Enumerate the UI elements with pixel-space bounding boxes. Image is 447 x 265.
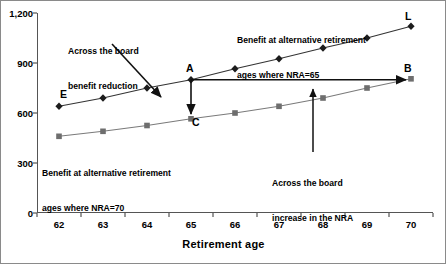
nra70-series-note-line1: Benefit at alternative retirement [42,168,171,180]
nra70-series-note-line2: ages where NRA=70 [42,203,171,215]
point-label-C: C [192,116,200,128]
nra70-series-note: Benefit at alternative retirement ages w… [42,145,171,237]
nra65-series-note: Benefit at alternative retirement ages w… [237,12,366,104]
benefit-reduction-note-line2: benefit reduction [68,81,139,93]
point-label-A: A [186,62,194,74]
point-label-E: E [60,88,67,100]
nra-increase-note-line1: Across the board [272,178,353,190]
nra-increase-note: Across the board increase in the NRA [272,155,353,247]
point-label-B: B [404,62,412,74]
x-axis-title: Retirement age [0,238,447,250]
x-tick-70: 70 [406,219,417,230]
x-tick-69: 69 [362,219,373,230]
x-tick-66: 66 [230,219,241,230]
nra65-series-note-line1: Benefit at alternative retirement [237,35,366,47]
benefit-reduction-note-line1: Across the board [68,46,139,58]
chart-root: 1,200 900 600 300 0 [0,0,447,265]
point-label-L: L [405,10,411,22]
benefit-reduction-note: Across the board benefit reduction [68,23,139,115]
x-tick-65: 65 [186,219,197,230]
y-axis-ticks [33,13,37,213]
nra-increase-note-line2: increase in the NRA [272,213,353,225]
nra65-series-note-line2: ages where NRA=65 [237,70,366,82]
